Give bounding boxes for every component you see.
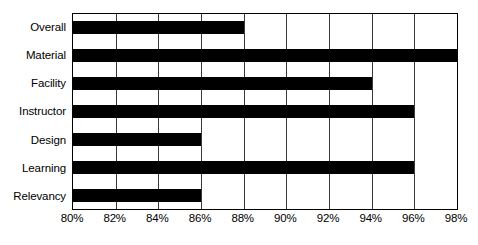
bar-relevancy (72, 189, 201, 202)
bars-layer (73, 14, 457, 209)
axis-tick-label: 94% (359, 212, 381, 224)
bar-learning (72, 161, 414, 174)
bar-row (73, 70, 457, 98)
axis-tick-label: 98% (445, 212, 467, 224)
axis-tick-label: 90% (274, 212, 296, 224)
bar-overall (72, 21, 244, 34)
category-label: Learning (0, 154, 66, 182)
bar-chart: Overall Material Facility Instructor Des… (0, 0, 478, 245)
bar-row (73, 181, 457, 209)
bar-row (73, 42, 457, 70)
bar-instructor (72, 105, 414, 118)
axis-tick-label: 88% (231, 212, 253, 224)
bar-design (72, 133, 201, 146)
category-label: Instructor (0, 97, 66, 125)
bar-row (73, 14, 457, 42)
bar-row (73, 153, 457, 181)
bar-facility (72, 77, 372, 90)
axis-tick-label: 84% (146, 212, 168, 224)
category-label: Relevancy (0, 182, 66, 210)
bar-material (72, 49, 457, 62)
axis-tick-label: 80% (61, 212, 83, 224)
axis-tick-label: 86% (189, 212, 211, 224)
axis-tick-label: 82% (103, 212, 125, 224)
bar-row (73, 98, 457, 126)
category-label: Facility (0, 69, 66, 97)
category-label: Material (0, 41, 66, 69)
value-axis: 80%82%84%86%88%90%92%94%96%98% (72, 212, 458, 234)
category-label: Design (0, 126, 66, 154)
axis-tick-label: 92% (317, 212, 339, 224)
bar-row (73, 125, 457, 153)
plot-area (72, 13, 458, 210)
axis-tick-label: 96% (402, 212, 424, 224)
category-axis: Overall Material Facility Instructor Des… (0, 13, 66, 210)
category-label: Overall (0, 13, 66, 41)
